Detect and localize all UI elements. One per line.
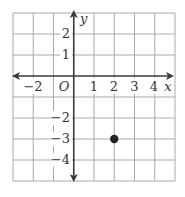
grid — [13, 13, 175, 181]
y-axis-label: y — [79, 11, 88, 26]
x-tick-label: 1 — [90, 79, 98, 94]
x-tick-label: 3 — [130, 79, 138, 94]
coordinate-plane: −2 O 1 2 3 4 x 2 1 −2 −3 −4 y — [0, 0, 185, 197]
x-axis-label: x — [164, 79, 172, 94]
data-point — [110, 135, 118, 143]
y-tick-label: −2 — [51, 110, 70, 125]
x-tick-label: −2 — [23, 79, 42, 94]
origin-label: O — [59, 79, 70, 94]
x-tick-label: 4 — [150, 79, 158, 94]
y-tick-label: −3 — [51, 131, 70, 146]
x-tick-label: 2 — [110, 79, 118, 94]
y-tick-label: −4 — [51, 152, 70, 167]
y-tick-label: 2 — [62, 26, 70, 41]
y-tick-label: 1 — [62, 47, 70, 62]
